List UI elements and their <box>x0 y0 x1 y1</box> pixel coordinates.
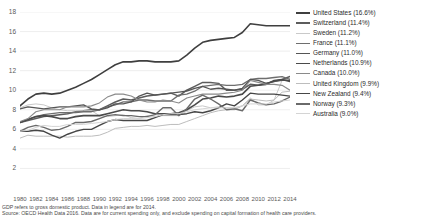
legend-color-swatch <box>296 73 310 74</box>
y-axis-tick-label: 18 <box>9 9 16 16</box>
legend-color-swatch <box>296 113 310 114</box>
legend-color-swatch <box>296 83 310 84</box>
legend-color-swatch <box>296 43 310 44</box>
legend-item-canada[interactable]: Canada (10.0%) <box>296 69 435 79</box>
x-axis: 1980198219841986198819901992199419961998… <box>20 190 290 204</box>
series-lines <box>20 24 290 138</box>
x-axis-tick-label: 2004 <box>204 196 217 202</box>
legend-color-swatch <box>296 93 310 94</box>
legend-item-label: United States (16.6%) <box>313 10 376 16</box>
legend-color-swatch <box>296 63 310 65</box>
chart-legend: United States (16.6%)Switzerland (11.4%)… <box>296 8 435 119</box>
legend-item-united-states[interactable]: United States (16.6%) <box>296 8 435 18</box>
x-axis-tick-label: 2008 <box>236 196 249 202</box>
legend-color-swatch <box>296 22 310 24</box>
legend-item-new-zealand[interactable]: New Zealand (9.4%) <box>296 89 435 99</box>
footnotes: GDP refers to gross domestic product. Da… <box>2 204 435 216</box>
gridlines <box>20 12 290 168</box>
x-axis-tick-label: 2014 <box>283 196 296 202</box>
x-axis-tick-label: 1982 <box>29 196 42 202</box>
x-axis-tick-label: 1986 <box>61 196 74 202</box>
y-axis: 24681012141618 <box>0 12 18 188</box>
legend-item-label: Australia (9.0%) <box>313 111 358 117</box>
footnote-source: Source: OECD Health Data 2016. Data are … <box>2 210 435 216</box>
x-axis-tick-label: 2000 <box>172 196 185 202</box>
y-axis-tick-label: 6 <box>12 126 16 133</box>
x-axis-tick-label: 1984 <box>45 196 58 202</box>
legend-item-label: France (11.1%) <box>313 40 357 46</box>
y-axis-tick-label: 12 <box>9 67 16 74</box>
x-axis-tick-label: 1990 <box>93 196 106 202</box>
x-axis-tick-label: 1994 <box>124 196 137 202</box>
x-axis-tick-label: 2006 <box>220 196 233 202</box>
x-axis-tick-label: 2002 <box>188 196 201 202</box>
legend-color-swatch <box>296 33 310 34</box>
plot-svg <box>20 12 290 188</box>
legend-item-australia[interactable]: Australia (9.0%) <box>296 109 435 119</box>
legend-item-norway[interactable]: Norway (9.3%) <box>296 99 435 109</box>
y-axis-tick-label: 4 <box>12 146 16 153</box>
y-axis-tick-label: 2 <box>12 165 16 172</box>
legend-item-france[interactable]: France (11.1%) <box>296 38 435 48</box>
legend-color-swatch <box>296 12 310 14</box>
legend-item-label: Germany (11.0%) <box>313 50 363 56</box>
legend-color-swatch <box>296 103 310 104</box>
legend-item-united-kingdom[interactable]: United Kingdom (9.9%) <box>296 79 435 89</box>
x-axis-tick-label: 1998 <box>156 196 169 202</box>
legend-item-label: Netherlands (10.9%) <box>313 60 372 66</box>
legend-item-label: Sweden (11.2%) <box>313 30 360 36</box>
x-axis-tick-label: 1996 <box>140 196 153 202</box>
x-axis-tick-label: 2010 <box>252 196 265 202</box>
legend-color-swatch <box>296 53 310 54</box>
y-axis-tick-label: 8 <box>12 107 16 114</box>
health-spending-chart: 24681012141618 1980198219841986198819901… <box>0 0 435 224</box>
x-axis-tick-label: 1988 <box>77 196 90 202</box>
x-axis-tick-label: 1980 <box>13 196 26 202</box>
x-axis-tick-label: 2012 <box>267 196 280 202</box>
legend-item-netherlands[interactable]: Netherlands (10.9%) <box>296 58 435 68</box>
plot-area <box>20 12 290 188</box>
y-axis-tick-label: 10 <box>9 87 16 94</box>
legend-item-label: United Kingdom (9.9%) <box>313 81 379 87</box>
legend-item-label: Canada (10.0%) <box>313 70 360 76</box>
legend-item-label: Switzerland (11.4%) <box>313 20 370 26</box>
legend-item-label: Norway (9.3%) <box>313 101 355 107</box>
legend-item-label: New Zealand (9.4%) <box>313 91 371 97</box>
x-axis-tick-label: 1992 <box>109 196 122 202</box>
legend-item-sweden[interactable]: Sweden (11.2%) <box>296 28 435 38</box>
y-axis-tick-label: 16 <box>9 28 16 35</box>
y-axis-tick-label: 14 <box>9 48 16 55</box>
legend-item-switzerland[interactable]: Switzerland (11.4%) <box>296 18 435 28</box>
legend-item-germany[interactable]: Germany (11.0%) <box>296 48 435 58</box>
